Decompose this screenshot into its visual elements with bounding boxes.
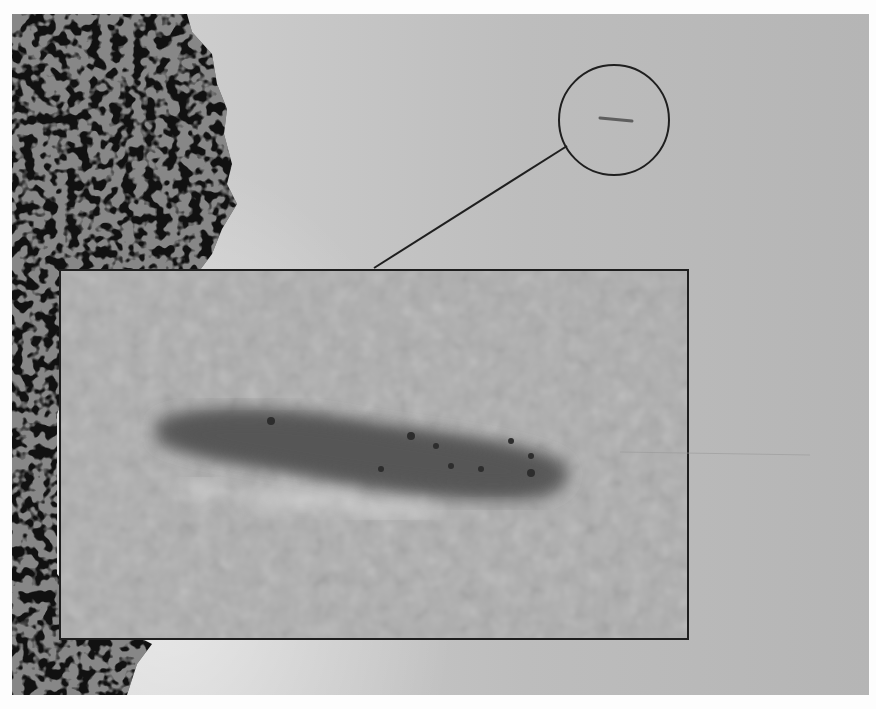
magnified-object <box>61 271 689 640</box>
magnified-inset <box>59 269 689 640</box>
photograph <box>12 14 869 695</box>
